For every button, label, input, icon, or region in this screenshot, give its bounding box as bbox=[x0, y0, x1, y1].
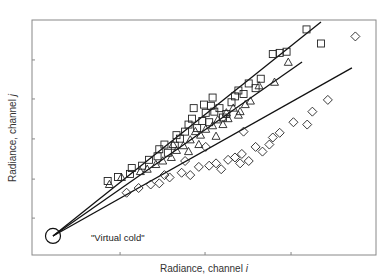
virtual-cold-annotation: "Virtual cold" bbox=[91, 232, 145, 243]
diamond-marker-icon bbox=[289, 118, 298, 127]
diamond-marker-icon bbox=[303, 120, 312, 129]
diamond-marker-icon bbox=[186, 171, 195, 180]
diamond-marker-icon bbox=[323, 95, 332, 104]
triangle-marker-icon bbox=[284, 58, 292, 65]
diamond-marker-icon bbox=[351, 32, 360, 41]
square-marker-icon bbox=[257, 75, 264, 82]
scatter-chart bbox=[0, 0, 390, 277]
diamonds-fit-line bbox=[53, 68, 352, 236]
diamond-marker-icon bbox=[258, 147, 267, 156]
square-marker-icon bbox=[317, 40, 324, 47]
triangle-marker-icon bbox=[191, 127, 199, 134]
diamond-marker-icon bbox=[308, 107, 317, 116]
diamond-marker-icon bbox=[177, 168, 186, 177]
square-marker-icon bbox=[209, 94, 216, 101]
diamond-marker-icon bbox=[194, 162, 203, 171]
square-marker-icon bbox=[269, 51, 276, 58]
diamond-marker-icon bbox=[275, 128, 284, 137]
diamond-marker-icon bbox=[251, 142, 260, 151]
data-points bbox=[104, 26, 360, 197]
diamond-marker-icon bbox=[244, 157, 253, 166]
square-marker-icon bbox=[190, 105, 197, 112]
y-axis-label: Radiance, channel j bbox=[7, 94, 18, 182]
x-axis-label: Radiance, channel i bbox=[160, 263, 248, 274]
triangle-marker-icon bbox=[212, 132, 220, 139]
triangle-marker-icon bbox=[105, 180, 113, 187]
square-marker-icon bbox=[201, 101, 208, 108]
diamond-marker-icon bbox=[155, 179, 164, 188]
